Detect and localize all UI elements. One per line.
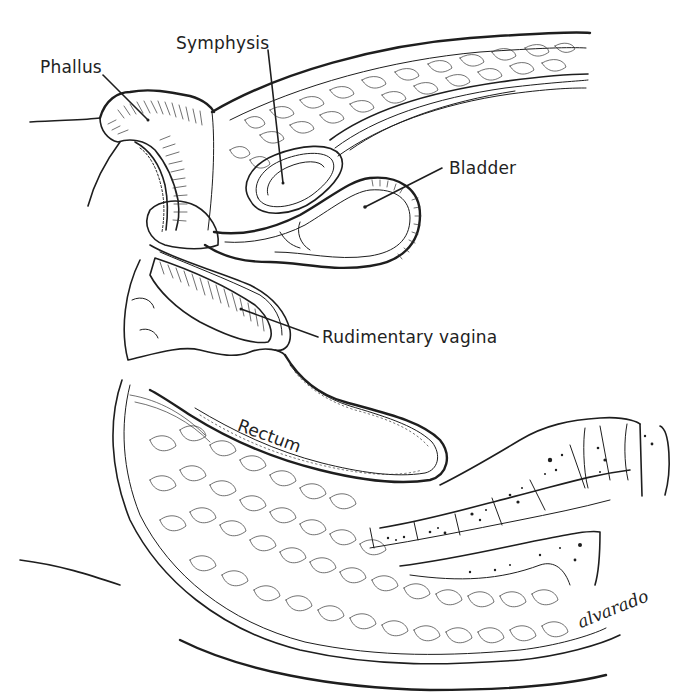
pointer-bladder bbox=[365, 168, 442, 207]
bone-marrow-dots bbox=[387, 435, 654, 541]
bladder-structure bbox=[205, 178, 421, 268]
pelvis-sagittal-drawing bbox=[0, 0, 691, 694]
label-rudimentary-vagina: Rudimentary vagina bbox=[322, 327, 497, 347]
gluteal-region bbox=[20, 380, 620, 690]
pelvic-floor bbox=[124, 201, 290, 360]
label-bladder: Bladder bbox=[449, 158, 516, 178]
label-phallus: Phallus bbox=[40, 57, 102, 77]
thigh-contour-lower bbox=[88, 142, 120, 206]
rectum-structure bbox=[150, 355, 447, 482]
pointer-phallus bbox=[103, 75, 148, 120]
anatomical-illustration: Phallus Symphysis Bladder Rudimentary va… bbox=[0, 0, 691, 694]
sacral-vertebrae bbox=[370, 418, 669, 585]
pointer-rudimentary-vagina bbox=[241, 309, 318, 337]
label-pointers bbox=[103, 50, 442, 337]
phallus-structure bbox=[100, 90, 214, 232]
label-symphysis: Symphysis bbox=[176, 33, 269, 53]
thigh-contour-upper bbox=[30, 118, 100, 122]
